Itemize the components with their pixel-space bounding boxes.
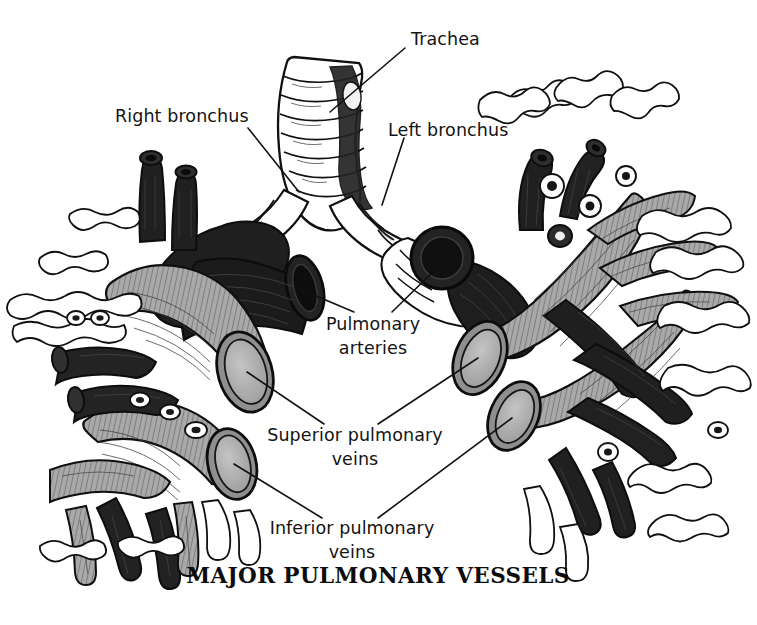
left-pa-cut-end <box>411 227 473 289</box>
label-pulmonary-arteries-line1: Pulmonary <box>326 314 420 334</box>
label-superior-veins-line2: veins <box>332 449 379 469</box>
label-superior-veins-line1: Superior pulmonary <box>267 425 443 445</box>
figure-title: MAJOR PULMONARY VESSELS <box>186 563 570 588</box>
label-inferior-veins-line2: veins <box>329 542 376 562</box>
label-trachea: Trachea <box>410 29 480 49</box>
pulmonary-vessels-illustration: Trachea Right bronchus Left bronchus Pul… <box>0 0 757 625</box>
anatomical-figure: Trachea Right bronchus Left bronchus Pul… <box>0 0 757 625</box>
label-left-bronchus: Left bronchus <box>388 120 508 140</box>
label-pulmonary-arteries-line2: arteries <box>339 338 407 358</box>
label-inferior-veins-line1: Inferior pulmonary <box>270 518 435 538</box>
label-right-bronchus: Right bronchus <box>115 106 249 126</box>
